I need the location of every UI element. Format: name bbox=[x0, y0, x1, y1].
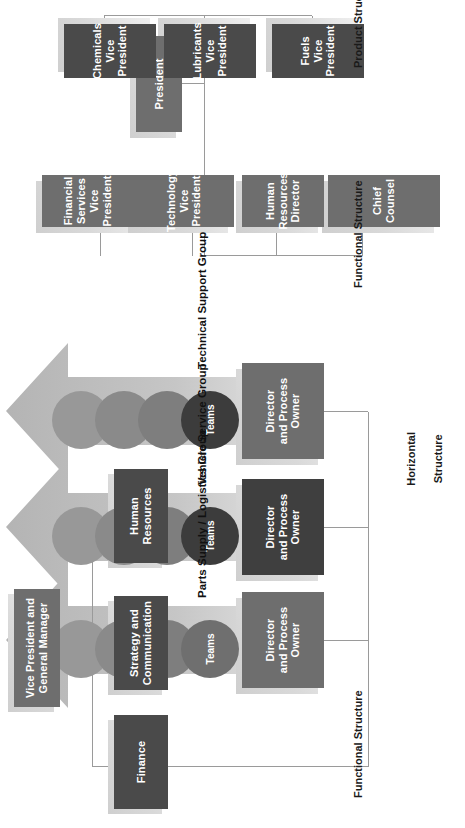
director3-label: Director and Process Owner bbox=[264, 376, 303, 447]
team-circle-vehicle-1[interactable]: Teams bbox=[181, 507, 239, 565]
fuels-vp-line1: Fuels bbox=[299, 36, 311, 65]
director3-line3: Owner bbox=[289, 394, 301, 429]
director1-label: Director and Process Owner bbox=[264, 605, 303, 676]
node-finance[interactable]: Finance bbox=[114, 715, 168, 809]
diagram-canvas: Functional Structure Vice President and … bbox=[0, 0, 465, 828]
node-director-process-owner-vehicle-service[interactable]: Director and Process Owner bbox=[242, 479, 324, 575]
hr-director-label: Human Resources Director bbox=[264, 170, 303, 231]
connector-horizontal-bus bbox=[368, 412, 369, 767]
vp-gm-line1: Vice President and bbox=[24, 598, 36, 698]
financial-vp-line3: Vice President bbox=[88, 175, 113, 226]
connector-group3-drop bbox=[318, 411, 368, 412]
strategy-line2: Communication bbox=[141, 601, 153, 685]
director2-line2: and Process bbox=[277, 494, 289, 561]
fuels-vp-label: Fuels Vice President bbox=[299, 23, 338, 78]
node-vice-president-general-manager[interactable]: Vice President and General Manager bbox=[14, 589, 60, 707]
finance-label: Finance bbox=[135, 739, 148, 785]
financial-vp-line1: Financial bbox=[62, 177, 74, 226]
strategy-label: Strategy and Communication bbox=[128, 599, 154, 687]
technology-vp-line1: Technology bbox=[165, 170, 177, 232]
hr-label: Human Resources bbox=[128, 485, 154, 546]
node-technology-vice-president[interactable]: Technology Vice President bbox=[134, 175, 234, 227]
team-circle-technical-1[interactable]: Teams bbox=[181, 391, 239, 449]
chemicals-vp-line1: Chemicals bbox=[91, 23, 103, 79]
vp-gm-label: Vice President and General Manager bbox=[24, 596, 50, 700]
horizontal-caption-line2: Structure bbox=[432, 434, 444, 483]
horizontal-caption-line1: Horizontal bbox=[405, 432, 417, 486]
teams-label-parts: Teams bbox=[205, 634, 216, 665]
hr-director-line2: Resources bbox=[277, 172, 289, 229]
connector-group1-drop bbox=[318, 640, 368, 641]
node-human-resources[interactable]: Human Resources bbox=[114, 469, 168, 563]
group-label-technical-support: Technical Support Group bbox=[196, 232, 208, 369]
node-strategy-and-communication[interactable]: Strategy and Communication bbox=[114, 596, 168, 690]
connector-president-riser bbox=[182, 83, 204, 84]
strategy-line1: Strategy and bbox=[128, 609, 140, 677]
caption-horizontal-structure: Horizontal Structure bbox=[392, 432, 458, 498]
director2-line1: Director bbox=[264, 506, 276, 549]
lubricants-vp-label: Lubricants Vice President bbox=[191, 20, 230, 81]
caption-product-structure: Product Structure bbox=[352, 0, 365, 68]
connector-product-bus-vertical bbox=[104, 15, 312, 16]
node-chemicals-vice-president[interactable]: Chemicals Vice President bbox=[64, 24, 156, 78]
financial-vp-line2: Services bbox=[75, 178, 87, 224]
node-financial-services-vice-president[interactable]: Financial Services Vice President bbox=[42, 175, 134, 227]
financial-vp-label: Financial Services Vice President bbox=[62, 173, 114, 228]
group-label-vehicle-service: Vehicle Service Group bbox=[196, 364, 208, 485]
node-director-process-owner-parts-supply[interactable]: Director and Process Owner bbox=[242, 592, 324, 688]
node-lubricants-vice-president[interactable]: Lubricants Vice President bbox=[164, 24, 256, 78]
director1-line1: Director bbox=[264, 619, 276, 662]
node-fuels-vice-president[interactable]: Fuels Vice President bbox=[272, 24, 364, 78]
chemicals-vp-label: Chemicals Vice President bbox=[91, 21, 130, 81]
hr-director-line3: Director bbox=[289, 180, 301, 223]
director2-line3: Owner bbox=[289, 510, 301, 545]
technology-vp-label: Technology Vice President bbox=[165, 168, 204, 234]
node-human-resources-director[interactable]: Human Resources Director bbox=[242, 175, 324, 227]
director1-line2: and Process bbox=[277, 607, 289, 674]
caption-functional-structure-top: Functional Structure bbox=[352, 690, 365, 798]
lubricants-vp-line2: Vice President bbox=[204, 25, 229, 76]
node-chief-counsel[interactable]: Chief Counsel bbox=[328, 175, 440, 227]
director3-line2: and Process bbox=[277, 378, 289, 445]
hr-director-line1: Human bbox=[264, 182, 276, 220]
caption-functional-structure-bottom: Functional Structure bbox=[352, 180, 365, 288]
connector-bottom-left-riser bbox=[204, 255, 362, 256]
hr-line1: Human bbox=[128, 497, 140, 535]
technology-vp-line2: Vice President bbox=[178, 175, 203, 226]
chemicals-vp-line2: Vice President bbox=[104, 25, 129, 76]
director2-label: Director and Process Owner bbox=[264, 492, 303, 563]
fuels-vp-line2: Vice President bbox=[312, 25, 337, 76]
connector-group2-drop bbox=[318, 527, 368, 528]
team-circle-parts-1[interactable]: Teams bbox=[181, 620, 239, 678]
chief-counsel-label: Chief Counsel bbox=[371, 175, 397, 227]
vp-gm-line2: General Manager bbox=[37, 603, 49, 694]
director3-line1: Director bbox=[264, 390, 276, 433]
node-director-process-owner-technical-support[interactable]: Director and Process Owner bbox=[242, 363, 324, 459]
hr-line2: Resources bbox=[141, 487, 153, 544]
lubricants-vp-line1: Lubricants bbox=[191, 22, 203, 79]
director1-line3: Owner bbox=[289, 623, 301, 658]
